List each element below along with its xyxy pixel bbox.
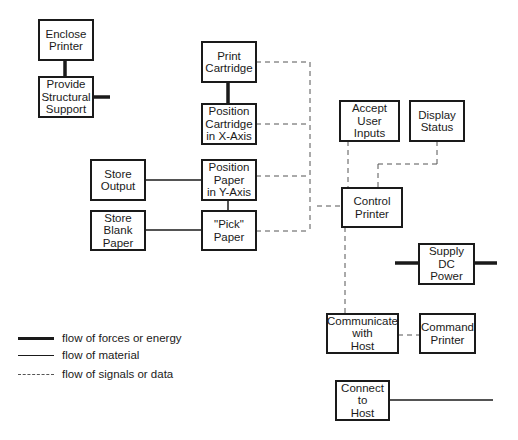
box-supply-dc-power: Supply DC Power — [418, 243, 475, 285]
box-accept-user-inputs: Accept User Inputs — [339, 100, 400, 142]
box-store-blank-paper: Store Blank Paper — [90, 210, 146, 251]
legend-signal: flow of signals or data — [18, 368, 173, 380]
box-pick-paper: "Pick" Paper — [201, 210, 257, 251]
box-display-status: Display Status — [409, 100, 465, 142]
box-control-printer: Control Printer — [341, 187, 403, 228]
thick-line-swatch — [18, 337, 54, 340]
box-store-output: Store Output — [90, 159, 146, 201]
box-print-cartridge: Print Cartridge — [201, 41, 257, 83]
box-command-printer: Command Printer — [419, 313, 476, 354]
box-position-paper: Position Paper in Y-Axis — [201, 159, 257, 201]
box-provide-structural-support: Provide Structural Support — [38, 76, 94, 118]
dashed-line-swatch — [18, 374, 54, 375]
box-communicate-with-host: Communicate with Host — [326, 313, 399, 354]
box-enclose-printer: Enclose Printer — [38, 19, 94, 61]
legend-material-label: flow of material — [62, 349, 139, 361]
legend-material: flow of material — [18, 349, 139, 361]
box-connect-to-host: Connect to Host — [335, 380, 390, 421]
legend-signal-label: flow of signals or data — [62, 368, 173, 380]
legend-energy-label: flow of forces or energy — [62, 332, 182, 344]
legend-energy: flow of forces or energy — [18, 332, 182, 344]
box-position-cartridge: Position Cartridge in X-Axis — [201, 103, 257, 145]
thin-line-swatch — [18, 355, 54, 356]
